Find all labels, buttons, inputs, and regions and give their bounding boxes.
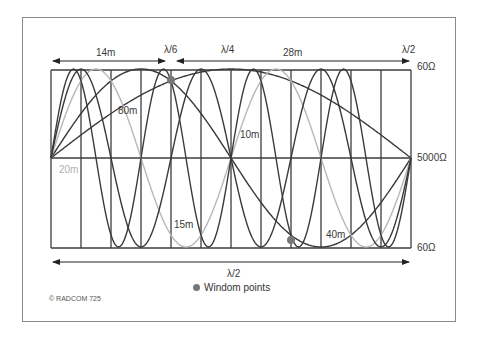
band-label-10m: 10m (240, 130, 259, 140)
impedance-middle: 5000Ω (417, 153, 447, 163)
label-lambda-2-bottom: λ/2 (227, 269, 240, 279)
impedance-bottom: 60Ω (417, 243, 436, 253)
band-label-20m: 20m (59, 165, 78, 175)
impedance-top: 60Ω (417, 62, 436, 72)
band-label-40m: 40m (326, 230, 345, 240)
windom-dot-icon (193, 284, 200, 291)
legend-windom: Windom points (193, 282, 270, 293)
windom-point (287, 236, 295, 244)
band-label-80m: 80m (118, 106, 137, 116)
label-lambda-2-top: λ/2 (402, 45, 415, 55)
label-lambda-6: λ/6 (164, 45, 177, 55)
label-lambda-4: λ/4 (221, 45, 234, 55)
windom-point (167, 76, 175, 84)
legend-label: Windom points (204, 282, 270, 293)
copyright: © RADCOM 725 (49, 295, 101, 302)
label-14m: 14m (96, 48, 115, 58)
band-label-15m: 15m (174, 220, 193, 230)
label-28m: 28m (283, 48, 302, 58)
